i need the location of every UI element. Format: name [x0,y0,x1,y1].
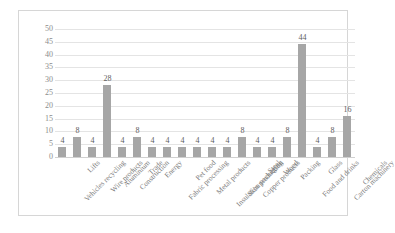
bar-value-label: 4 [265,137,280,145]
bar[interactable] [313,147,321,157]
bar-group[interactable]: 4 [85,29,100,157]
y-axis-tick-label: 15 [27,115,53,123]
bar-group[interactable]: 4 [175,29,190,157]
bar-value-label: 16 [340,106,355,114]
bar[interactable] [73,137,81,157]
bar-value-label: 8 [280,127,295,135]
bar-group[interactable]: 4 [160,29,175,157]
bar-value-label: 4 [205,137,220,145]
x-axis-line [55,157,355,158]
y-axis-tick-label: 0 [27,153,53,161]
bar-group[interactable]: 44 [295,29,310,157]
bar-value-label: 4 [115,137,130,145]
bar[interactable] [58,147,66,157]
bar-group[interactable]: 4 [55,29,70,157]
bar-value-label: 4 [85,137,100,145]
bar[interactable] [283,137,291,157]
bar-value-label: 4 [220,137,235,145]
y-axis-tick-label: 40 [27,51,53,59]
bar-value-label: 28 [100,75,115,83]
bar[interactable] [163,147,171,157]
bar[interactable] [208,147,216,157]
bar-group[interactable]: 8 [235,29,250,157]
bar[interactable] [343,116,351,157]
bar-group[interactable]: 8 [325,29,340,157]
x-axis-tick-label: Packing [298,159,320,181]
bar-group[interactable]: 8 [280,29,295,157]
y-axis-tick-label: 35 [27,63,53,71]
y-axis-tick-label: 10 [27,127,53,135]
y-axis-tick-label: 50 [27,25,53,33]
bar-value-label: 4 [160,137,175,145]
bar[interactable] [148,147,156,157]
bar-value-label: 4 [250,137,265,145]
bar-value-label: 8 [70,127,85,135]
bar-group[interactable]: 4 [205,29,220,157]
bar-value-label: 8 [325,127,340,135]
y-axis-tick-label: 20 [27,102,53,110]
bar-value-label: 4 [175,137,190,145]
bar-group[interactable]: 8 [70,29,85,157]
bar-group[interactable]: 16 [340,29,355,157]
bar[interactable] [193,147,201,157]
bar-value-label: 44 [295,34,310,42]
bar-value-label: 4 [145,137,160,145]
bar[interactable] [103,85,111,157]
bar-group[interactable]: 4 [310,29,325,157]
x-axis-labels: Vehicles recyclingLiftsWire productsAlum… [55,159,355,221]
bar[interactable] [178,147,186,157]
bar-value-label: 4 [310,137,325,145]
bar-value-label: 8 [235,127,250,135]
bar-group[interactable]: 4 [190,29,205,157]
bar-group[interactable]: 4 [220,29,235,157]
bar-value-label: 4 [190,137,205,145]
bar-group[interactable]: 8 [130,29,145,157]
y-axis-tick-label: 45 [27,38,53,46]
bar-group[interactable]: 28 [100,29,115,157]
bar[interactable] [328,137,336,157]
bar[interactable] [88,147,96,157]
bar-group[interactable]: 4 [250,29,265,157]
y-axis-tick-label: 30 [27,76,53,84]
chart-frame: 0510152025303540455048428484444448448444… [18,10,348,216]
bar-value-label: 8 [130,127,145,135]
bar[interactable] [253,147,261,157]
bar[interactable] [298,44,306,157]
bar[interactable] [133,137,141,157]
y-axis-tick-label: 5 [27,140,53,148]
bar[interactable] [223,147,231,157]
y-axis-tick-label: 25 [27,89,53,97]
bar-group[interactable]: 4 [145,29,160,157]
bar-value-label: 4 [55,137,70,145]
plot-area: 0510152025303540455048428484444448448444… [55,29,355,157]
x-axis-tick-label: Lifts [86,159,102,175]
bar-group[interactable]: 4 [115,29,130,157]
bar[interactable] [268,147,276,157]
bar-group[interactable]: 4 [265,29,280,157]
bar[interactable] [238,137,246,157]
bar[interactable] [118,147,126,157]
